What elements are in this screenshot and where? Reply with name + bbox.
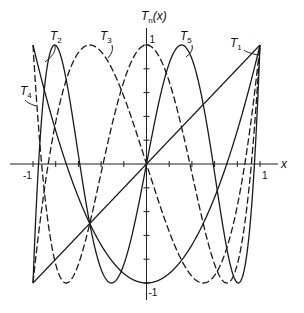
x-axis-label: x (280, 157, 288, 171)
curve-label-t5: T5 (180, 29, 192, 45)
y-tick-label-min: -1 (149, 287, 158, 298)
curve-label-t4: T4 (20, 84, 32, 100)
y-tick-label-max: 1 (150, 34, 156, 45)
curve-label-t2: T2 (50, 29, 62, 45)
leader-arrow (108, 45, 113, 58)
chebyshev-chart: T2T3T4T5T1Tn(x)x-111-1 (0, 0, 304, 313)
leader-arrow (25, 100, 36, 106)
y-axis-label: Tn(x) (141, 9, 167, 25)
curve-label-t1: T1 (230, 36, 242, 52)
x-tick-label-max: 1 (262, 170, 268, 181)
curve-label-t3: T3 (100, 29, 112, 45)
leader-arrow (186, 45, 192, 57)
x-tick-label-min: -1 (23, 170, 32, 181)
